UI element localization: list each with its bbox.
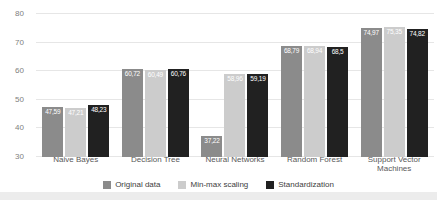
bar: 60,49 [145,70,166,157]
x-axis-label: Decision Tree [116,155,196,173]
x-axis-label: Random Forest [275,155,355,173]
x-axis-label: Support Vector Machines [354,155,434,173]
bar-value-label: 68,5 [332,48,344,55]
y-tick-label: 50 [15,95,24,104]
legend-swatch-icon [103,181,111,189]
bar-group: 68,7968,9468,5 [281,14,348,157]
bar: 47,21 [65,108,86,157]
bar-group: 47,5947,2148,23 [42,14,109,157]
x-axis-label: Neural Networks [195,155,275,173]
plot-area: 47,5947,2148,2360,7260,4960,7637,2258,96… [36,14,434,157]
bar-value-label: 47,59 [45,108,60,115]
bar: 74,97 [361,28,382,157]
bar-value-label: 47,21 [68,109,83,116]
bar-value-label: 74,97 [364,29,379,36]
bar: 60,76 [168,69,189,157]
y-tick-label: 80 [15,9,24,18]
legend-item: Standardization [266,180,334,189]
bar: 68,94 [304,46,325,157]
x-axis-label: Naive Bayes [36,155,116,173]
legend-label: Standardization [278,180,334,189]
bar-value-label: 75,35 [387,28,402,35]
bar-value-label: 68,79 [284,47,299,54]
y-tick-label: 40 [15,123,24,132]
bar: 59,19 [247,74,268,157]
y-tick-label: 60 [15,66,24,75]
bar-groups: 47,5947,2148,2360,7260,4960,7637,2258,96… [36,14,434,157]
bar: 48,23 [88,105,109,157]
bar: 58,96 [224,74,245,157]
bar: 60,72 [122,69,143,157]
bottom-strip [0,192,437,200]
y-tick-label: 30 [15,152,24,161]
legend-label: Min-max scaling [190,180,248,189]
bar-group: 37,2258,9659,19 [201,14,268,157]
legend-swatch-icon [178,181,186,189]
legend-item: Min-max scaling [178,180,248,189]
bar-value-label: 60,72 [125,70,140,77]
legend-item: Original data [103,180,160,189]
bar-value-label: 74,82 [410,30,425,37]
legend: Original dataMin-max scalingStandardizat… [0,180,437,189]
legend-label: Original data [115,180,160,189]
bar-value-label: 59,19 [250,75,265,82]
bar: 75,35 [384,27,405,157]
y-tick-label: 70 [15,38,24,47]
x-axis: Naive BayesDecision TreeNeural NetworksR… [36,155,434,173]
bar-group: 60,7260,4960,76 [122,14,189,157]
bar: 37,22 [201,136,222,157]
bar-value-label: 58,96 [227,75,242,82]
bar-chart: 304050607080 47,5947,2148,2360,7260,4960… [0,0,437,200]
bar-value-label: 60,49 [148,71,163,78]
bar-group: 74,9775,3574,82 [361,14,428,157]
bar: 74,82 [407,29,428,157]
bar-value-label: 37,22 [204,137,219,144]
y-axis: 304050607080 [0,14,28,157]
bar: 68,79 [281,46,302,157]
bar: 68,5 [327,47,348,157]
bar-value-label: 48,23 [91,106,106,113]
bar-value-label: 68,94 [307,47,322,54]
bar: 47,59 [42,107,63,157]
bar-value-label: 60,76 [171,70,186,77]
legend-swatch-icon [266,181,274,189]
